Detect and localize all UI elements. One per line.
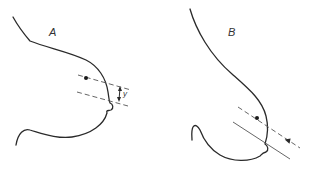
panel-b-lower-line [233,122,290,159]
arrow-left-icon [285,139,292,145]
panel-a-focus-dot [84,76,88,80]
panel-b: B [190,9,300,160]
panel-a: A y [13,17,131,145]
panel-b-upper-dashed-line [238,107,300,148]
panel-b-label: B [228,26,235,38]
panel-a-lower-dashed-line [77,92,128,106]
panel-a-label: A [48,26,56,38]
panel-a-measurement-label: y [122,89,128,98]
double-arrow-icon [117,86,122,102]
diagram-canvas: A y B [0,0,309,169]
panel-b-focus-dot [255,116,259,120]
